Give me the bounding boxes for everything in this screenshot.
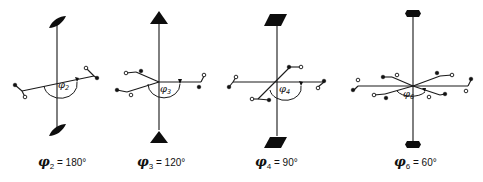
phi-symbol: φ bbox=[38, 154, 50, 169]
triangle-symbol-bottom-icon bbox=[150, 131, 168, 143]
arc-arrowhead-icon bbox=[422, 88, 426, 92]
angle-label: φ3 bbox=[160, 83, 171, 96]
open-point-icon bbox=[316, 86, 320, 90]
open-point-icon bbox=[202, 73, 206, 77]
solid-point-icon bbox=[381, 75, 385, 79]
parallelogram-symbol-bottom-icon bbox=[264, 137, 287, 148]
angle-value: = 60° bbox=[413, 157, 437, 168]
phi-symbol: φ bbox=[255, 154, 267, 169]
open-point-icon bbox=[356, 78, 360, 82]
caption-phi6: φ6 = 60° bbox=[394, 154, 437, 169]
solid-point-icon bbox=[469, 77, 473, 81]
open-point-icon bbox=[427, 95, 431, 99]
open-point-icon bbox=[124, 71, 128, 75]
open-point-icon bbox=[234, 75, 238, 79]
solid-point-icon bbox=[95, 76, 99, 80]
phi-symbol: φ bbox=[394, 154, 406, 169]
angle-label: φ4 bbox=[279, 83, 290, 96]
open-point-icon bbox=[450, 73, 454, 77]
open-point-icon bbox=[395, 73, 399, 77]
solid-point-icon bbox=[287, 65, 291, 69]
open-point-icon bbox=[84, 66, 88, 70]
hexagon-symbol-bottom-icon bbox=[405, 141, 421, 148]
solid-point-icon bbox=[13, 83, 17, 87]
subscript: 3 bbox=[149, 162, 153, 171]
phi-symbol: φ bbox=[137, 154, 149, 169]
hexagon-symbol-top-icon bbox=[405, 10, 421, 17]
triangle-symbol-top-icon bbox=[150, 11, 168, 24]
solid-point-icon bbox=[351, 88, 355, 92]
open-point-icon bbox=[250, 97, 254, 101]
caption-phi3: φ3 = 120° bbox=[137, 154, 185, 169]
solid-point-icon bbox=[435, 71, 439, 75]
panel-twofold-axis: φ2 bbox=[13, 16, 99, 136]
panel-threefold-axis: φ3 bbox=[115, 11, 206, 143]
parallelogram-symbol-top-icon bbox=[264, 14, 287, 26]
angle-label: φ2 bbox=[58, 79, 69, 92]
solid-point-icon bbox=[384, 96, 388, 100]
angle-value: = 120° bbox=[156, 157, 185, 168]
open-point-icon bbox=[299, 65, 303, 69]
solid-point-icon bbox=[115, 88, 119, 92]
open-point-icon bbox=[464, 89, 468, 93]
panel-sixfold-axis: φ6 bbox=[351, 10, 473, 148]
angle-value: = 180° bbox=[57, 157, 86, 168]
solid-point-icon bbox=[197, 85, 201, 89]
subscript: 4 bbox=[267, 162, 271, 171]
open-point-icon bbox=[23, 95, 27, 99]
caption-phi4: φ4 = 90° bbox=[255, 154, 298, 169]
open-point-icon bbox=[372, 93, 376, 97]
subscript: 2 bbox=[50, 162, 54, 171]
caption-phi2: φ2 = 180° bbox=[38, 154, 86, 169]
panel-fourfold-axis: φ4 bbox=[227, 14, 326, 148]
solid-point-icon bbox=[443, 92, 447, 96]
solid-point-icon bbox=[139, 69, 143, 73]
subscript: 6 bbox=[406, 162, 410, 171]
solid-point-icon bbox=[322, 79, 326, 83]
angle-value: = 90° bbox=[274, 157, 298, 168]
open-point-icon bbox=[129, 93, 133, 97]
